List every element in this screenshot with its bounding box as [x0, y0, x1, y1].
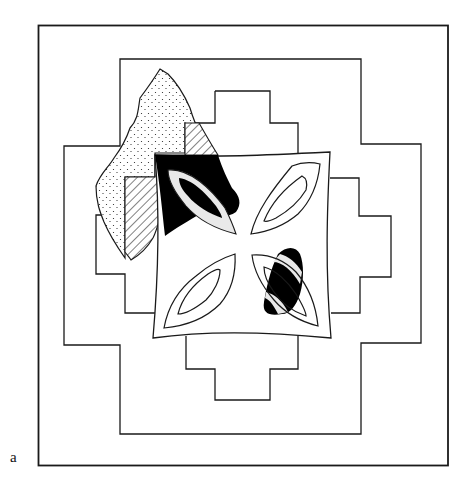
- diagram-figure: [0, 0, 474, 487]
- panel-label: a: [10, 449, 17, 466]
